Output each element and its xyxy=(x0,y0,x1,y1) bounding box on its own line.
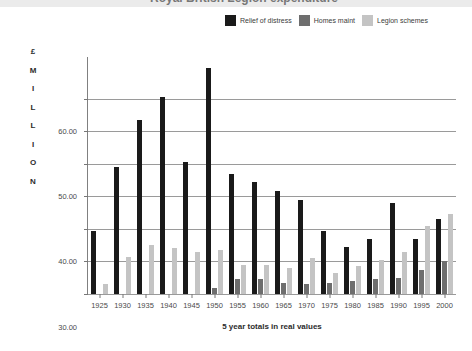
bar-group: 2000 xyxy=(433,66,456,294)
legend-swatch-homes-maint xyxy=(299,15,310,26)
x-tick-mark xyxy=(168,294,169,298)
x-tick-label: 1990 xyxy=(390,301,407,310)
x-tick-label: 1940 xyxy=(160,301,177,310)
gridline xyxy=(88,294,456,295)
x-tick-mark xyxy=(306,294,307,298)
bar xyxy=(137,120,142,294)
bar xyxy=(436,219,441,294)
bar xyxy=(218,250,223,294)
y-axis-caption-letter: L xyxy=(31,122,36,130)
bar xyxy=(367,239,372,294)
bar xyxy=(183,162,188,294)
bar xyxy=(442,261,447,294)
bar xyxy=(310,258,315,294)
bar xyxy=(321,231,326,295)
clipped-title-strip: Royal British Legion expenditure xyxy=(0,0,472,7)
x-tick-mark xyxy=(375,294,376,298)
plot-area: 0.0010.0020.0030.0040.0050.0060.00 19251… xyxy=(88,66,456,294)
x-tick-mark xyxy=(145,294,146,298)
bar xyxy=(373,279,378,294)
chart-legend: Relief of distressHomes maintLegion sche… xyxy=(225,15,428,26)
legend-item: Homes maint xyxy=(299,15,355,26)
bar-group: 1965 xyxy=(272,66,295,294)
x-tick-label: 1980 xyxy=(344,301,361,310)
x-tick-label: 1925 xyxy=(91,301,108,310)
bar-group: 1945 xyxy=(180,66,203,294)
bar xyxy=(413,239,418,294)
bar xyxy=(149,245,154,294)
bar-chart: Royal British Legion expenditure Relief … xyxy=(0,0,472,351)
bar-group: 1995 xyxy=(410,66,433,294)
x-tick-mark xyxy=(352,294,353,298)
bar xyxy=(448,214,453,294)
legend-item-label: Relief of distress xyxy=(240,17,292,24)
y-axis-caption-letter: N xyxy=(30,178,36,186)
bar xyxy=(402,252,407,294)
y-axis-caption-letter: I xyxy=(32,141,34,149)
x-tick-mark xyxy=(283,294,284,298)
y-tick-label: 40.00 xyxy=(58,257,77,266)
x-tick-label: 1970 xyxy=(298,301,315,310)
bar xyxy=(419,270,424,294)
y-tick-mark: 0.00 xyxy=(84,294,88,295)
bar xyxy=(350,281,355,294)
x-tick-mark xyxy=(214,294,215,298)
bar-group: 1960 xyxy=(249,66,272,294)
bar xyxy=(235,279,240,294)
bar xyxy=(91,231,96,295)
y-axis-caption-letter: M xyxy=(30,67,37,75)
bar xyxy=(206,68,211,294)
bar-group: 1930 xyxy=(111,66,134,294)
bar xyxy=(298,200,303,294)
legend-item-label: Legion schemes xyxy=(377,17,428,24)
legend-swatch-legion-schemes xyxy=(362,15,373,26)
bar xyxy=(258,279,263,294)
x-tick-mark xyxy=(329,294,330,298)
bar xyxy=(356,266,361,294)
x-axis-title: 5 year totals in real values xyxy=(88,322,456,331)
bar xyxy=(103,284,108,294)
bar-group: 1940 xyxy=(157,66,180,294)
y-tick-label: 50.00 xyxy=(58,192,77,201)
bar xyxy=(379,260,384,294)
x-tick-mark xyxy=(398,294,399,298)
bar xyxy=(396,278,401,294)
x-tick-label: 1960 xyxy=(252,301,269,310)
bar xyxy=(172,248,177,294)
page-title: Royal British Legion expenditure xyxy=(150,0,338,5)
x-tick-mark xyxy=(237,294,238,298)
bar xyxy=(114,167,119,294)
legend-swatch-relief-of-distress xyxy=(225,15,236,26)
bar xyxy=(333,273,338,294)
y-axis-caption: £MILLION xyxy=(26,48,40,196)
x-tick-label: 1930 xyxy=(114,301,131,310)
y-axis-caption-letter: I xyxy=(32,85,34,93)
bar xyxy=(425,226,430,294)
legend-item: Legion schemes xyxy=(362,15,428,26)
bar-group: 1935 xyxy=(134,66,157,294)
x-tick-mark xyxy=(444,294,445,298)
y-tick-label: 30.00 xyxy=(58,322,77,331)
bar xyxy=(264,265,269,294)
bar xyxy=(344,247,349,294)
bar xyxy=(287,268,292,294)
y-tick-label: 60.00 xyxy=(58,127,77,136)
x-tick-label: 2000 xyxy=(436,301,453,310)
bar xyxy=(304,284,309,294)
x-tick-label: 1985 xyxy=(367,301,384,310)
bar xyxy=(327,283,332,294)
legend-item: Relief of distress xyxy=(225,15,292,26)
bar-group: 1985 xyxy=(364,66,387,294)
y-axis-caption-letter: £ xyxy=(31,48,35,56)
x-tick-label: 1965 xyxy=(275,301,292,310)
bar xyxy=(281,283,286,294)
x-tick-label: 1995 xyxy=(413,301,430,310)
x-tick-mark xyxy=(191,294,192,298)
x-tick-mark xyxy=(260,294,261,298)
bar xyxy=(160,97,165,294)
bar-group: 1970 xyxy=(295,66,318,294)
legend-item-label: Homes maint xyxy=(314,17,355,24)
bar-group: 1975 xyxy=(318,66,341,294)
y-axis-caption-letter: O xyxy=(30,159,36,167)
bar xyxy=(195,252,200,294)
